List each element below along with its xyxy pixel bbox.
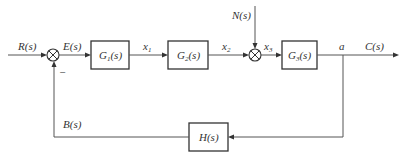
- output-signal: a C(s): [317, 40, 399, 58]
- feedback-signal-B: B(s): [52, 61, 190, 137]
- block-g3: G3(s): [282, 41, 317, 69]
- summing-junction-2: [249, 49, 261, 61]
- label-R: R(s): [17, 40, 37, 53]
- block-g2: G2(s): [168, 41, 208, 69]
- block-g1: G1(s): [91, 41, 129, 69]
- h-label: H(s): [198, 131, 219, 144]
- label-B: B(s): [63, 118, 82, 131]
- signal-x1: x1: [129, 40, 168, 58]
- summing-junction-1: −: [47, 49, 66, 78]
- g3-label: G3(s): [288, 49, 311, 63]
- disturbance-signal: N(s): [231, 6, 258, 49]
- minus-sign: −: [59, 66, 66, 78]
- signal-x2: x2: [208, 40, 249, 58]
- block-diagram: R(s) − E(s) G1(s) x1 G2(s) x2 N(s): [0, 0, 402, 161]
- label-x2: x2: [221, 40, 231, 54]
- g2-label: G2(s): [177, 49, 200, 63]
- label-C: C(s): [365, 40, 384, 53]
- signal-x3: x3: [261, 40, 282, 58]
- label-N: N(s): [231, 9, 251, 22]
- error-signal: E(s): [59, 40, 91, 58]
- g1-label: G1(s): [99, 49, 122, 63]
- label-x1: x1: [142, 40, 151, 54]
- input-signal: R(s): [8, 40, 47, 58]
- block-h: H(s): [189, 123, 228, 151]
- label-node-a: a: [339, 40, 345, 52]
- label-x3: x3: [263, 40, 273, 54]
- label-E: E(s): [62, 40, 82, 53]
